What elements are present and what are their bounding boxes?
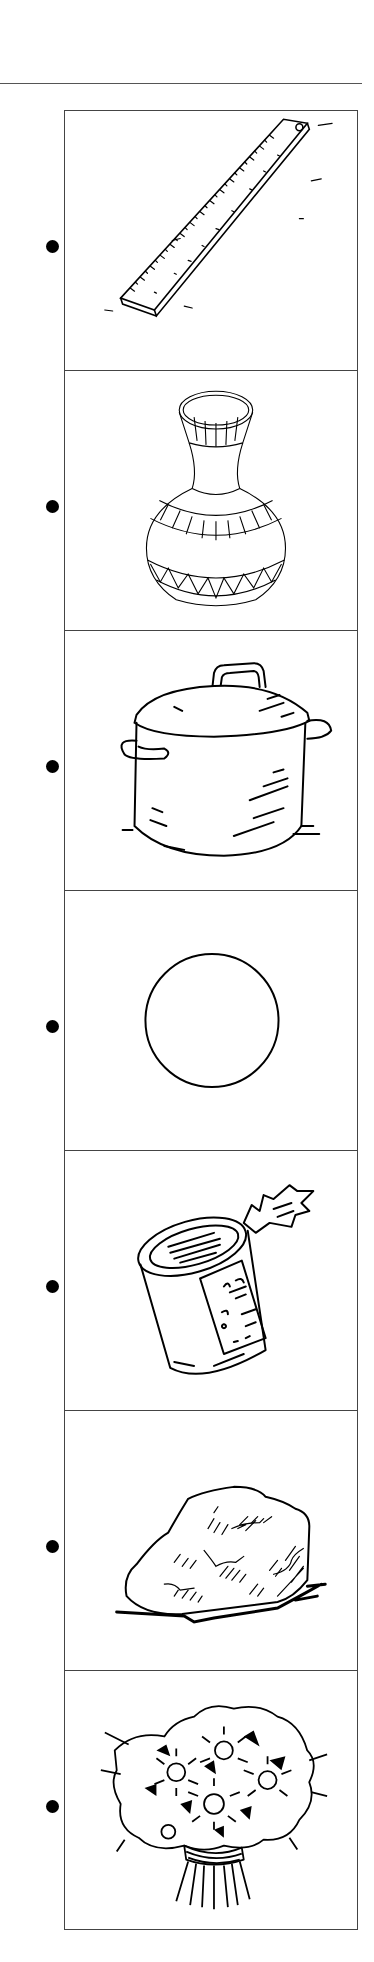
flowers-icon (65, 1671, 357, 1929)
match-dot[interactable] (46, 500, 59, 513)
picture-cell-flowers: flowers (64, 1670, 358, 1930)
picture-cell-ruler: ruler (64, 110, 358, 370)
match-dot[interactable] (46, 1020, 59, 1033)
vase-icon (65, 371, 357, 630)
can-icon (65, 1151, 357, 1410)
picture-cell-vase: vase (64, 370, 358, 630)
match-dot[interactable] (46, 760, 59, 773)
match-dot[interactable] (46, 1280, 59, 1293)
picture-cell-pot: pot (64, 630, 358, 890)
rock-icon (65, 1411, 357, 1670)
picture-column: ruler vase (64, 110, 358, 1930)
pot-icon (65, 631, 357, 890)
match-dot[interactable] (46, 1800, 59, 1813)
picture-cell-rock: rock (64, 1410, 358, 1670)
ruler-icon (65, 111, 357, 370)
match-dot[interactable] (46, 1540, 59, 1553)
top-divider (0, 83, 362, 84)
circle-icon (65, 891, 357, 1150)
picture-cell-circle: circle (64, 890, 358, 1150)
match-dot[interactable] (46, 240, 59, 253)
picture-cell-can: can (64, 1150, 358, 1410)
